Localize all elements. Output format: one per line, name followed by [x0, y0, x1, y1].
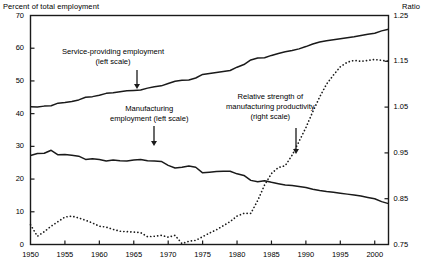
x-axis-tick-label: 1965 — [119, 250, 149, 259]
annotation-arrow-head — [151, 141, 157, 146]
y-axis-right-tick-label: 1.05 — [394, 102, 420, 111]
x-axis-tick-label: 2000 — [360, 250, 390, 259]
plot-area — [0, 0, 422, 268]
series-path-0 — [31, 29, 389, 107]
series-path-2 — [31, 59, 389, 243]
y-axis-left-tick-label: 60 — [4, 43, 24, 52]
x-axis-tick-label: 1975 — [188, 250, 218, 259]
x-axis-tick-label: 1970 — [153, 250, 183, 259]
x-axis-tick-label: 1960 — [84, 250, 114, 259]
annotation-manufacturing-line2: employment (left scale) — [110, 114, 189, 124]
annotation-ratio-line2: manufacturing productivity — [226, 102, 315, 112]
x-axis-tick-label: 1985 — [256, 250, 286, 259]
y-axis-left-tick-label: 70 — [4, 11, 24, 20]
x-axis-tick-label: 1980 — [222, 250, 252, 259]
x-axis-tick-label: 1955 — [50, 250, 80, 259]
annotation-arrow-head — [134, 84, 140, 89]
y-axis-left-tick-label: 50 — [4, 76, 24, 85]
series-path-1 — [31, 150, 389, 203]
annotation-service-line1: Service-providing employment — [62, 47, 164, 57]
y-axis-left-tick-label: 10 — [4, 207, 24, 216]
y-axis-left-tick-label: 20 — [4, 174, 24, 183]
chart-container: Percent of total employment Ratio 010203… — [0, 0, 422, 268]
y-axis-right-tick-label: 0.95 — [394, 148, 420, 157]
y-axis-right-tick-label: 0.75 — [394, 240, 420, 249]
x-axis-tick-label: 1950 — [16, 250, 46, 259]
x-axis-tick-label: 1995 — [325, 250, 355, 259]
y-axis-left-tick-label: 30 — [4, 141, 24, 150]
annotation-ratio-line1: Relative strength of — [226, 92, 315, 102]
annotation-manufacturing-line1: Manufacturing — [110, 104, 189, 114]
annotation-relative-strength: Relative strength of manufacturing produ… — [226, 92, 315, 122]
y-axis-right-tick-label: 1.25 — [394, 11, 420, 20]
x-axis-tick-label: 1990 — [291, 250, 321, 259]
annotation-arrow-head — [293, 149, 299, 154]
annotation-service-line2: (left scale) — [62, 57, 164, 67]
y-axis-right-tick-label: 0.85 — [394, 194, 420, 203]
annotation-ratio-line3: (right scale) — [226, 112, 315, 122]
annotation-service-providing: Service-providing employment (left scale… — [62, 47, 164, 67]
annotation-manufacturing: Manufacturing employment (left scale) — [110, 104, 189, 124]
y-axis-left-tick-label: 0 — [4, 240, 24, 249]
y-axis-right-tick-label: 1.15 — [394, 56, 420, 65]
y-axis-left-tick-label: 40 — [4, 109, 24, 118]
